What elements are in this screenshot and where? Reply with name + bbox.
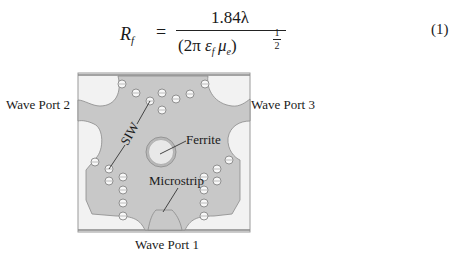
wave-port-2-label: Wave Port 2 (6, 97, 70, 113)
wave-port-1-label: Wave Port 1 (135, 237, 199, 253)
wave-port-3-label: Wave Port 3 (251, 97, 315, 113)
circulator-figure (0, 0, 469, 256)
ferrite-label: Ferrite (186, 132, 221, 148)
microstrip-label: Microstrip (149, 173, 204, 189)
